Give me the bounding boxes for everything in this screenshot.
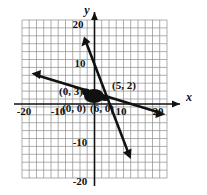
y-tick-label-neg20: -20: [73, 175, 88, 187]
x-tick-label-neg20: -20: [17, 105, 32, 117]
point-label-0-0: (0, 0): [62, 102, 86, 115]
y-tick-label-neg10: -10: [73, 136, 88, 148]
x-axis-name: x: [185, 90, 192, 104]
graph-svg: 20 10 -10 -20 -20 -10 10 20 x y (0, 3) (…: [0, 0, 207, 195]
x-tick-label-20: 20: [153, 105, 165, 117]
y-tick-label-20: 20: [73, 18, 85, 30]
point-label-5-2: (5, 2): [112, 79, 136, 92]
y-tick-label-10: 10: [75, 57, 87, 69]
point-label-0-3: (0, 3): [59, 85, 83, 98]
x-tick-label-10: 10: [116, 105, 128, 117]
y-axis-name: y: [82, 3, 90, 17]
point-label-6-0: (6, 0): [90, 102, 114, 115]
coordinate-plane-figure: 20 10 -10 -20 -20 -10 10 20 x y (0, 3) (…: [0, 0, 207, 195]
